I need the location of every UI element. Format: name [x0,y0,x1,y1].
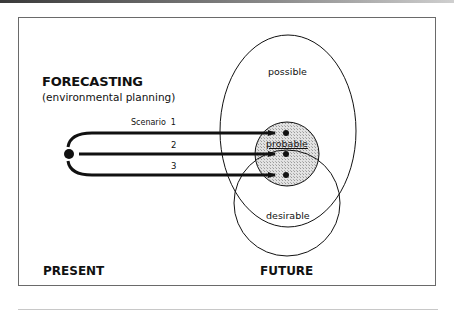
diagram-title: FORECASTING [42,74,143,89]
diagram-subtitle: (environmental planning) [42,91,175,103]
scenario-2-endpoint [283,151,289,157]
present-label: PRESENT [43,264,104,278]
possible-label: possible [268,66,307,77]
scenario-3-endpoint [283,172,289,178]
desirable-label: desirable [266,210,310,221]
scenario-3-label: 3 [171,161,176,171]
future-label: FUTURE [260,264,313,278]
present-start-dot [64,149,74,159]
scenario-2-label: 2 [171,140,176,150]
probable-label: probable [266,138,308,149]
scenario-1-label: Scenario 1 [131,118,176,127]
scenario-1-endpoint [283,130,289,136]
